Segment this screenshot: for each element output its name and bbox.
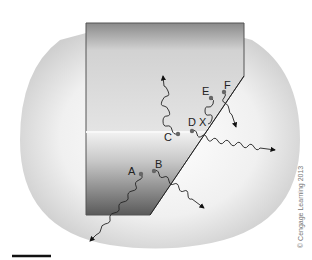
label-b: B	[155, 158, 162, 170]
label-x: X	[199, 116, 207, 128]
point-d	[190, 129, 194, 133]
label-c: C	[164, 131, 172, 143]
point-e	[209, 96, 213, 100]
crystal-diagram: A B C D X E F	[0, 0, 312, 260]
label-f: F	[224, 79, 231, 91]
label-e: E	[202, 85, 209, 97]
label-a: A	[128, 165, 136, 177]
point-a	[139, 172, 143, 176]
point-c	[176, 132, 180, 136]
copyright-text: © Cengage Learning 2013	[297, 166, 304, 248]
label-d: D	[188, 116, 196, 128]
